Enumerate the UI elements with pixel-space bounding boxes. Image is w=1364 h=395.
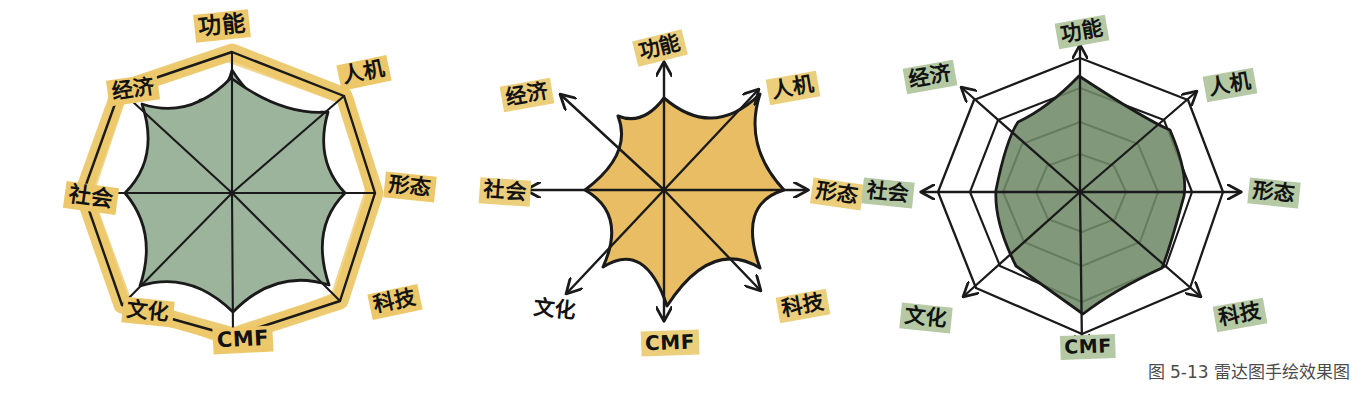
axis-label-cmf: CMF bbox=[641, 329, 700, 356]
data-area-b bbox=[585, 94, 784, 306]
axis-label-shehui: 社会 bbox=[479, 177, 532, 206]
axis-label-wenhua: 文化 bbox=[121, 296, 174, 327]
figure-canvas: 功能 人机 形态 科技 CMF 文化 社会 经济 bbox=[0, 0, 1364, 395]
axis-label-cmf: CMF bbox=[1060, 334, 1116, 360]
axis-label-gongneng: 功能 bbox=[193, 9, 251, 43]
axis-label-shehui: 社会 bbox=[861, 177, 914, 208]
axis-arrows-c bbox=[922, 46, 1240, 348]
axis-label-wenhua: 文化 bbox=[528, 294, 581, 325]
radar-chart-green-highlight: 功能 人机 形态 科技 CMF 文化 社会 经济 bbox=[0, 0, 455, 395]
radar-chart-amber-arrows: 功能 人机 形态 科技 CMF 文化 社会 经济 bbox=[455, 0, 875, 395]
axis-label-cmf: CMF bbox=[212, 325, 273, 354]
figure-caption: 图 5-13 雷达图手绘效果图 bbox=[1148, 358, 1350, 383]
axis-label-xingtai: 形态 bbox=[1247, 177, 1300, 208]
radar-chart-green-spiderweb: 功能 人机 形态 科技 CMF 文化 社会 经济 bbox=[870, 0, 1300, 395]
axis-label-xingtai: 形态 bbox=[383, 171, 436, 202]
axis-label-wenhua: 文化 bbox=[899, 302, 952, 333]
data-area-c bbox=[996, 76, 1185, 314]
